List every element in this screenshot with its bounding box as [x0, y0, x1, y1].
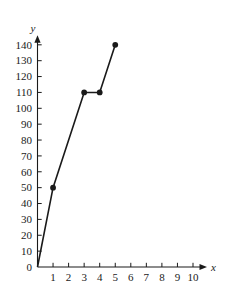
y-tick-label: 130 — [16, 54, 33, 66]
x-tick-label: 1 — [50, 271, 56, 283]
y-axis-tick-labels: 0102030405060708090100110120130140 — [16, 39, 33, 273]
x-tick-label: 2 — [66, 271, 72, 283]
y-tick-label: 140 — [16, 39, 33, 51]
y-tick-label: 40 — [21, 197, 33, 209]
y-axis-arrowhead — [34, 35, 40, 43]
x-tick-label: 4 — [97, 271, 103, 283]
x-tick-label: 8 — [159, 271, 165, 283]
data-point-marker — [112, 42, 118, 48]
data-series-line — [38, 45, 116, 267]
y-tick-label: 60 — [21, 166, 33, 178]
y-tick-label: 30 — [21, 213, 33, 225]
y-tick-label: 50 — [21, 181, 33, 193]
y-tick-label: 0 — [27, 261, 33, 273]
y-tick-label: 120 — [16, 70, 33, 82]
data-series-markers — [50, 42, 118, 191]
y-tick-label: 80 — [21, 134, 33, 146]
y-axis-label: y — [30, 22, 36, 34]
x-tick-label: 6 — [128, 271, 134, 283]
x-tick-label: 7 — [144, 271, 150, 283]
x-tick-label: 5 — [113, 271, 119, 283]
y-tick-label: 100 — [16, 102, 33, 114]
series-group — [38, 42, 119, 267]
data-point-marker — [81, 90, 87, 96]
x-tick-label: 3 — [81, 271, 87, 283]
y-axis-group: 0102030405060708090100110120130140 y — [16, 22, 42, 273]
y-tick-label: 110 — [16, 86, 33, 98]
x-axis-tick-labels: 12345678910 — [50, 271, 199, 283]
x-tick-label: 10 — [188, 271, 200, 283]
x-axis-arrowhead — [199, 264, 207, 270]
x-axis-group: 12345678910 x — [38, 261, 217, 283]
chart-canvas: 0102030405060708090100110120130140 y 123… — [0, 0, 238, 298]
y-tick-label: 90 — [21, 118, 33, 130]
line-chart: 0102030405060708090100110120130140 y 123… — [0, 0, 238, 298]
y-tick-label: 10 — [21, 245, 33, 257]
y-tick-label: 20 — [21, 229, 33, 241]
x-axis-label: x — [210, 261, 216, 273]
data-point-marker — [50, 185, 56, 191]
x-tick-label: 9 — [175, 271, 181, 283]
data-point-marker — [97, 90, 103, 96]
y-tick-label: 70 — [21, 150, 33, 162]
y-axis-ticks — [38, 45, 42, 251]
x-axis-ticks — [53, 263, 193, 267]
